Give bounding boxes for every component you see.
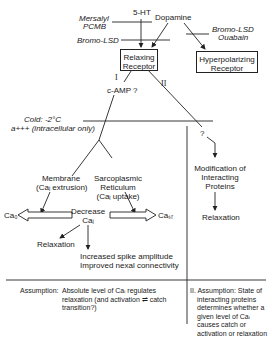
sr-node: Sarcoplasmic Reticulum (Caᵢ uptake) xyxy=(92,174,144,201)
dopamine-label: Dopamine xyxy=(155,13,191,22)
cold-label: Cold: -2°C xyxy=(24,115,61,124)
question-label: ? xyxy=(200,129,204,138)
spike-line1: Increased spike amplitude xyxy=(80,252,179,261)
relaxing-receptor-line2: Receptor xyxy=(121,62,157,71)
sr-line1: Sarcoplasmic xyxy=(92,174,144,183)
membrane-line2: (Caᵢ extrusion) xyxy=(36,183,86,192)
path-one-label: I xyxy=(115,73,118,82)
path-two-label: II xyxy=(161,79,166,88)
serotonin-label: 5-HT xyxy=(133,8,151,17)
camp-label: c-AMP ? xyxy=(107,86,138,95)
spike-line2: Improved nexal connectivity xyxy=(80,261,179,270)
assumption-right-line5: causes catch or xyxy=(190,321,267,330)
membrane-line1: Membrane xyxy=(36,174,86,183)
hyperpolarizing-receptor-line1: Hyperpolarizing xyxy=(197,55,257,64)
modification-line2: Interacting xyxy=(190,173,250,182)
membrane-node: Membrane (Caᵢ extrusion) xyxy=(36,174,86,192)
cao-label: Ca₀ xyxy=(4,211,18,220)
decrease-line2: Caᵢ xyxy=(70,216,106,225)
sr-line3: (Caᵢ uptake) xyxy=(92,192,144,201)
relaxing-receptor-box: Relaxing Receptor xyxy=(120,49,158,71)
assumption-right-line3: determines whether a xyxy=(190,304,267,313)
bromo-lsd-left-label: Bromo-LSD xyxy=(77,36,119,45)
modification-line1: Modification of xyxy=(190,164,250,173)
assumption-left-line3: transition?) xyxy=(62,304,166,313)
assumption-left-line1: Absolute level of Caᵢ regulates xyxy=(62,287,166,296)
assumption-right-text: II. Assumption: State of interacting pro… xyxy=(190,287,267,338)
assumption-left-line2: relaxation (and activation ⇌ catch xyxy=(62,296,166,305)
casr-label: Caₛᵣ xyxy=(158,211,173,220)
hyperpolarizing-receptor-box: Hyperpolarizing Receptor xyxy=(196,51,258,73)
assumption-left-text: Absolute level of Caᵢ regulates relaxati… xyxy=(62,287,166,313)
decrease-line1: Decrease xyxy=(70,207,106,216)
relaxation-right-label: Relaxation xyxy=(202,213,240,222)
pcmb-label: PCMB xyxy=(83,22,106,31)
assumption-right-line6: activation or relaxation xyxy=(190,330,267,338)
atp-label: a+++ (intracellular only) xyxy=(11,124,95,133)
modification-node: Modification of Interacting Proteins xyxy=(190,164,250,191)
assumption-right-line4: given level of Caᵢ xyxy=(190,313,267,322)
assumption-left-label: Assumption: xyxy=(20,287,59,296)
assumption-right-line1: II. Assumption: State of xyxy=(190,287,267,296)
relaxation-left-label: Relaxation xyxy=(37,240,75,249)
relaxing-receptor-line1: Relaxing xyxy=(121,53,157,62)
spike-node: Increased spike amplitude Improved nexal… xyxy=(80,252,179,270)
modification-line3: Proteins xyxy=(190,182,250,191)
sr-line2: Reticulum xyxy=(92,183,144,192)
hyperpolarizing-receptor-line2: Receptor xyxy=(197,64,257,73)
assumption-right-line2: interacting proteins xyxy=(190,296,267,305)
ouabain-label: Ouabain xyxy=(218,33,248,42)
decrease-cai-node: Decrease Caᵢ xyxy=(70,207,106,225)
